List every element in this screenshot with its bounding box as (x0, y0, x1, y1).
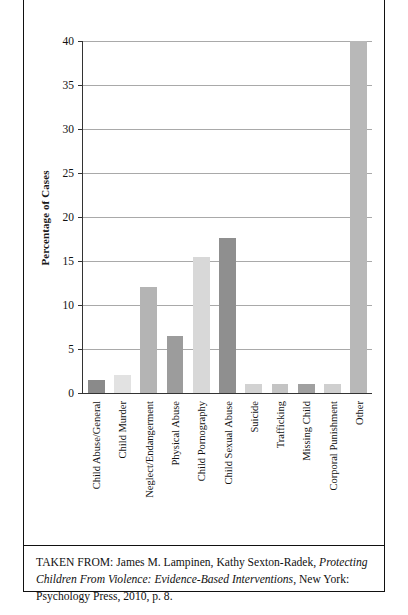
y-axis-tick-label: 0 (68, 387, 74, 399)
bar (219, 238, 236, 393)
x-axis-tick-label: Child Murder (117, 401, 128, 458)
y-axis-tick (78, 305, 83, 306)
x-axis-tick-label: Neglect/Endangerment (143, 401, 154, 498)
bar (350, 41, 367, 393)
bar (167, 336, 184, 393)
y-axis-tick (78, 129, 83, 130)
bar (193, 257, 210, 393)
bar (324, 384, 341, 393)
x-axis-tick-label: Child Pornography (196, 401, 207, 481)
y-axis-tick (78, 85, 83, 86)
y-axis-tick-label: 25 (63, 167, 75, 179)
caption-authors: James M. Lampinen, Kathy Sexton-Radek, (116, 556, 316, 569)
y-axis-title: Percentage of Cases (37, 41, 53, 394)
x-axis-tick-label: Physical Abuse (169, 401, 180, 465)
x-axis-tick-label: Suicide (248, 401, 259, 433)
x-axis-tick-label: Child Abuse/General (91, 401, 102, 489)
bar (272, 384, 289, 393)
y-axis-tick-label: 40 (63, 35, 75, 47)
y-axis-tick (78, 173, 83, 174)
gridline (83, 85, 372, 86)
bar (140, 287, 157, 393)
gridline (83, 173, 372, 174)
bar (245, 384, 262, 393)
y-axis-tick-label: 10 (63, 299, 75, 311)
bar (298, 384, 315, 393)
y-axis-tick-label: 15 (63, 255, 75, 267)
y-axis-tick (78, 217, 83, 218)
x-axis-tick-label: Missing Child (301, 401, 312, 461)
bar-chart: Percentage of Cases 0510152025303540Chil… (23, 0, 385, 539)
bar (88, 380, 105, 393)
gridline (83, 129, 372, 130)
gridline (83, 217, 372, 218)
x-axis-tick-label: Trafficking (275, 401, 286, 448)
plot-area: 0510152025303540Child Abuse/GeneralChild… (82, 41, 372, 394)
y-axis-tick (78, 41, 83, 42)
x-axis-tick-label: Child Sexual Abuse (222, 401, 233, 484)
y-axis-title-label: Percentage of Cases (39, 170, 51, 265)
y-axis-tick-label: 5 (68, 343, 74, 355)
x-axis-tick-label: Other (353, 401, 364, 425)
y-axis-tick-label: 35 (63, 79, 75, 91)
y-axis-tick (78, 349, 83, 350)
y-axis-tick (78, 393, 83, 394)
y-axis-tick-label: 30 (63, 123, 75, 135)
caption-lead: TAKEN FROM: (36, 556, 113, 569)
y-axis-tick-label: 20 (63, 211, 75, 223)
caption-text: TAKEN FROM: James M. Lampinen, Kathy Sex… (36, 555, 372, 606)
y-axis-tick (78, 261, 83, 262)
gridline (83, 41, 372, 42)
x-axis-tick-label: Corporal Punishment (327, 401, 338, 491)
source-caption: TAKEN FROM: James M. Lampinen, Kathy Sex… (23, 545, 385, 592)
bar (114, 375, 131, 393)
